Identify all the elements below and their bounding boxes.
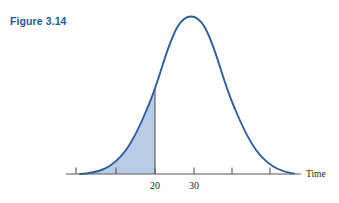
- bell-curve-path: [80, 17, 294, 175]
- shaded-area-region: [80, 88, 155, 174]
- bell-curve-plot: 20 30 Time: [0, 0, 339, 203]
- x-axis-title-time: Time: [306, 169, 326, 179]
- figure-container: Figure 3.14 20 30 Time: [0, 0, 339, 203]
- x-tick-label-20: 20: [150, 180, 160, 191]
- x-tick-label-30: 30: [189, 180, 199, 191]
